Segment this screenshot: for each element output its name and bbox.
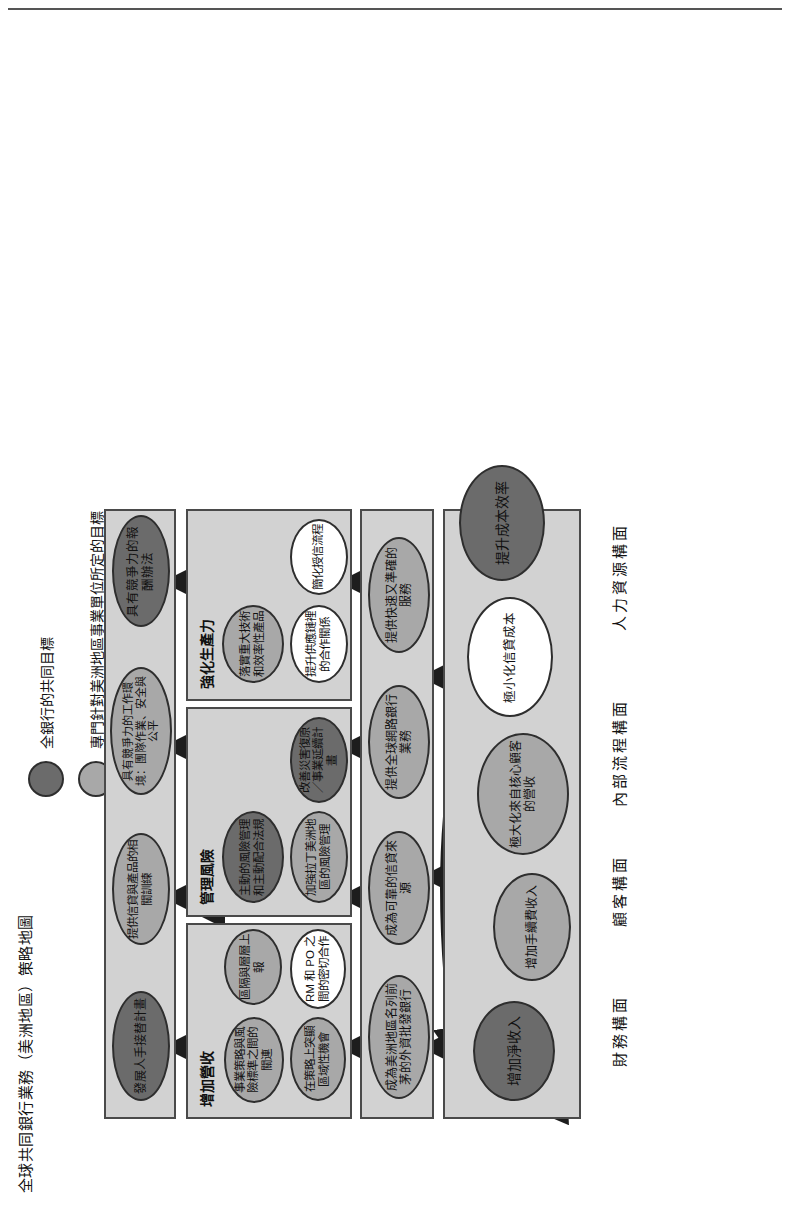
objective-oval[interactable]: 極大化來自核心顧客的營收 <box>477 733 569 855</box>
objective-oval[interactable]: 提供全球網路銀行業務 <box>368 685 430 799</box>
band-hr: 發展人手接替計畫 提供信貸與產品的相關訓練 具有競爭力的工作環境：團隊作業、安全… <box>104 509 176 1119</box>
objective-oval[interactable]: 極小化信貸成本 <box>467 597 553 717</box>
objective-oval[interactable]: 具有競爭力的報酬辦法 <box>112 515 170 627</box>
objective-oval[interactable]: 成為可靠的信貸來源 <box>368 831 430 945</box>
process-group-title: 管理風險 <box>196 849 216 905</box>
objective-oval[interactable]: 提升成本效率 <box>459 465 545 581</box>
perspective-label-process: 內部流程構面 <box>608 699 629 807</box>
objective-oval[interactable]: 成為美洲地區名列前茅的外資批發銀行 <box>368 975 430 1099</box>
legend-swatch-bankwide-icon <box>28 761 64 797</box>
perspective-label-financial: 財務構面 <box>608 995 629 1067</box>
legend-item: 全銀行的共同目標 <box>28 511 64 797</box>
objective-oval[interactable]: 具有競爭力的工作環境：團隊作業、安全與公平 <box>110 667 172 795</box>
objective-oval[interactable]: RM 和 PO 之間的密切合作 <box>290 929 346 1009</box>
band-financial: 增加淨收入 增加手續費收入 極大化來自核心顧客的營收 極小化信貸成本 提升成本效… <box>443 509 581 1119</box>
legend-label: 全銀行的共同目標 <box>36 637 56 749</box>
objective-oval[interactable]: 改善災害復原／事業延續計畫 <box>290 717 348 803</box>
page-title: 全球共同銀行業務（美洲地區）策略地圖 <box>14 914 35 1193</box>
objective-oval[interactable]: 區隔與層層上報 <box>224 929 282 1005</box>
objective-oval[interactable]: 提升供應鏈裡的合作關係 <box>290 605 348 683</box>
strategy-map-canvas: 全球共同銀行業務（美洲地區）策略地圖 全銀行的共同目標 專門針對美洲地區事業單位… <box>0 0 790 1227</box>
process-group-title: 強化生產力 <box>196 619 216 689</box>
band-customer: 成為美洲地區名列前茅的外資批發銀行 成為可靠的信貸來源 提供全球網路銀行業務 提… <box>360 509 434 1119</box>
perspective-label-hr: 人力資源構面 <box>608 523 629 631</box>
objective-oval[interactable]: 增加手續費收入 <box>493 873 571 981</box>
perspective-label-customer: 顧客構面 <box>608 855 629 927</box>
process-group-risk: 管理風險 主動的風險管理和主動配合法規 加強拉丁美洲地區的風險管理 改善災害復原… <box>186 707 352 917</box>
objective-oval[interactable]: 提供快速又準確的服務 <box>368 537 430 653</box>
objective-oval[interactable]: 落實重大技術和效率性產品 <box>222 605 284 683</box>
objective-oval[interactable]: 主動的風險管理和主動配合法規 <box>222 811 284 903</box>
objective-oval[interactable]: 增加淨收入 <box>473 1001 555 1101</box>
objective-oval[interactable]: 簡化授信流程 <box>290 519 348 595</box>
legend-label: 專門針對美洲地區事業單位所定的目標 <box>86 511 106 749</box>
process-group-title: 增加營收 <box>196 1051 216 1107</box>
objective-oval[interactable]: 提供信貸與產品的相關訓練 <box>112 833 170 945</box>
process-group-revenue: 增加營收 事業策略與風險標準之間的關連 在策略上突顯區域性機會 RM 和 PO … <box>186 923 352 1119</box>
objective-oval[interactable]: 發展人手接替計畫 <box>112 991 170 1101</box>
page-edge-rule <box>8 8 782 10</box>
objective-oval[interactable]: 加強拉丁美洲地區的風險管理 <box>290 811 348 903</box>
objective-oval[interactable]: 在策略上突顯區域性機會 <box>290 1017 346 1101</box>
process-group-productivity: 強化生產力 落實重大技術和效率性產品 提升供應鏈裡的合作關係 簡化授信流程 <box>186 509 352 701</box>
objective-oval[interactable]: 事業策略與風險標準之間的關連 <box>224 1017 284 1103</box>
